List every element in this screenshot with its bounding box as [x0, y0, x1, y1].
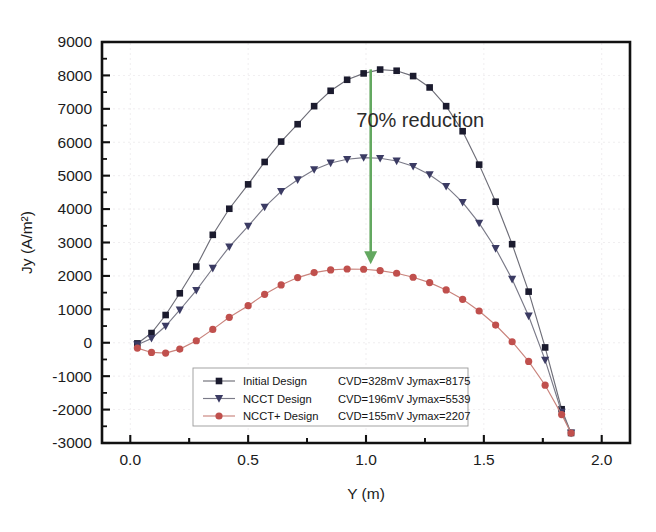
series-marker — [162, 312, 169, 319]
legend-entry-info: CVD=196mV Jymax=5539 — [338, 393, 470, 405]
series-marker — [294, 121, 301, 128]
series-marker — [193, 263, 200, 270]
caption-ghost — [12, 521, 312, 531]
series-marker — [542, 344, 549, 351]
y-tick-label: 3000 — [58, 234, 93, 251]
series-marker — [567, 429, 574, 436]
series-marker — [261, 291, 268, 298]
y-tick-label: 7000 — [58, 100, 93, 117]
series-marker — [542, 382, 549, 389]
series-marker — [393, 270, 400, 277]
legend-sample-marker — [215, 412, 222, 419]
series-marker — [148, 349, 155, 356]
series-marker — [344, 265, 351, 272]
series-marker — [393, 67, 400, 74]
x-tick-label: 0.0 — [120, 451, 142, 468]
legend-entry-info: CVD=155mV Jymax=2207 — [338, 410, 470, 422]
y-tick-label: 8000 — [58, 67, 93, 84]
series-marker — [311, 269, 318, 276]
x-axis-title: Y (m) — [347, 485, 385, 502]
legend-entry-label: Initial Design — [243, 375, 307, 387]
y-tick-label: 6000 — [58, 134, 93, 151]
legend-entry-label: NCCT Design — [243, 393, 312, 405]
x-tick-label: 2.0 — [591, 451, 613, 468]
series-marker — [245, 181, 252, 188]
legend: Initial DesignCVD=328mV Jymax=8175NCCT D… — [193, 368, 470, 426]
x-tick-label: 1.0 — [355, 451, 377, 468]
series-marker — [492, 198, 499, 205]
figure-root: 70% reduction-3000-2000-1000010002000300… — [0, 0, 656, 532]
series-marker — [476, 307, 483, 314]
series-marker — [261, 159, 268, 166]
series-marker — [226, 314, 233, 321]
series-marker — [327, 266, 334, 273]
series-marker — [509, 338, 516, 345]
series-marker — [525, 358, 532, 365]
y-tick-label: 4000 — [58, 200, 93, 217]
series-marker — [193, 337, 200, 344]
series-marker — [278, 281, 285, 288]
series-marker — [426, 279, 433, 286]
series-marker — [492, 321, 499, 328]
series-marker — [410, 73, 417, 80]
y-tick-label: 9000 — [58, 33, 93, 50]
series-marker — [459, 296, 466, 303]
series-marker — [525, 288, 532, 295]
series-marker — [294, 274, 301, 281]
series-marker — [245, 302, 252, 309]
y-axis-title: Jy (A/m²) — [18, 211, 35, 274]
y-axis-title-group: Jy (A/m²) — [18, 211, 35, 274]
y-tick-label: -3000 — [52, 434, 92, 451]
y-tick-label: -1000 — [52, 368, 92, 385]
series-marker — [176, 345, 183, 352]
series-marker — [327, 87, 334, 94]
series-marker — [360, 70, 367, 77]
series-marker — [226, 205, 233, 212]
y-tick-label: 5000 — [58, 167, 93, 184]
x-tick-label: 0.5 — [237, 451, 259, 468]
series-marker — [278, 138, 285, 145]
series-marker — [426, 84, 433, 91]
legend-entry-label: NCCT+ Design — [243, 410, 319, 422]
y-tick-label: 2000 — [58, 267, 93, 284]
series-marker — [134, 344, 141, 351]
legend-entry-info: CVD=328mV Jymax=8175 — [338, 375, 470, 387]
series-marker — [509, 241, 516, 248]
series-marker — [344, 76, 351, 83]
series-marker — [377, 267, 384, 274]
x-tick-label: 1.5 — [473, 451, 495, 468]
y-tick-label: 1000 — [58, 301, 93, 318]
series-marker — [377, 66, 384, 73]
y-tick-label: -2000 — [52, 401, 92, 418]
series-marker — [360, 266, 367, 273]
y-tick-label: 0 — [83, 334, 92, 351]
series-marker — [209, 326, 216, 333]
series-marker — [410, 274, 417, 281]
series-marker — [176, 290, 183, 297]
chart-canvas: 70% reduction-3000-2000-1000010002000300… — [0, 0, 656, 532]
series-marker — [162, 350, 169, 357]
legend-sample-marker — [216, 378, 223, 385]
series-marker — [311, 103, 318, 110]
series-marker — [476, 161, 483, 168]
series-marker — [443, 286, 450, 293]
series-marker — [558, 411, 565, 418]
annotation-label: 70% reduction — [356, 109, 484, 131]
series-marker — [209, 232, 216, 239]
